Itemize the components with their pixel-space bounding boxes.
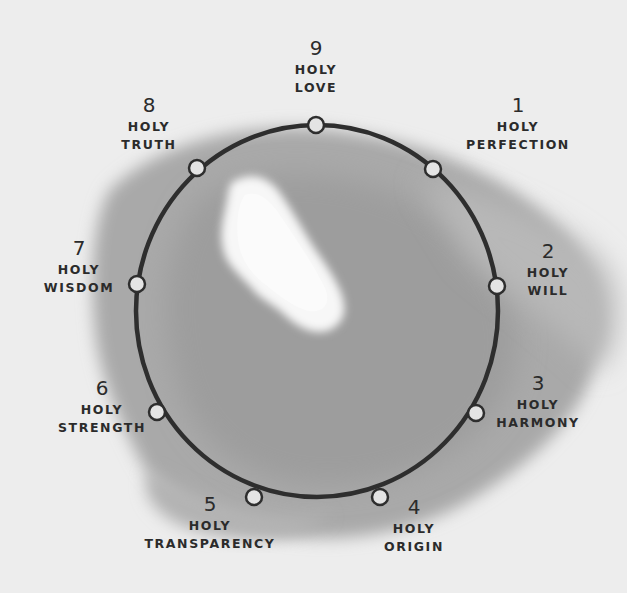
node-9[interactable]: [308, 117, 324, 133]
node-number: 8: [121, 95, 176, 115]
label-node-7: 7 HOLY WISDOM: [44, 238, 114, 294]
node-number: 3: [496, 373, 580, 393]
node-label-line1: HOLY: [466, 121, 570, 134]
label-node-4: 4 HOLY ORIGIN: [384, 497, 444, 553]
node-number: 9: [295, 38, 338, 58]
label-node-2: 2 HOLY WILL: [527, 241, 570, 297]
node-label-line2: PERFECTION: [466, 139, 570, 152]
label-node-3: 3 HOLY HARMONY: [496, 373, 580, 429]
node-7[interactable]: [129, 276, 145, 292]
node-label-line1: HOLY: [44, 264, 114, 277]
node-label-line2: ORIGIN: [384, 541, 444, 554]
node-number: 2: [527, 241, 570, 261]
label-node-1: 1 HOLY PERFECTION: [466, 95, 570, 151]
node-label-line1: HOLY: [144, 520, 275, 533]
node-label-line2: TRANSPARENCY: [144, 538, 275, 551]
node-label-line2: TRUTH: [121, 139, 176, 152]
node-label-line2: STRENGTH: [58, 422, 146, 435]
node-label-line1: HOLY: [121, 121, 176, 134]
node-label-line1: HOLY: [496, 399, 580, 412]
label-node-6: 6 HOLY STRENGTH: [58, 378, 146, 434]
node-label-line1: HOLY: [58, 404, 146, 417]
node-number: 6: [58, 378, 146, 398]
node-number: 7: [44, 238, 114, 258]
node-label-line2: WISDOM: [44, 282, 114, 295]
watercolor-wash: [93, 128, 617, 539]
node-label-line1: HOLY: [295, 64, 338, 77]
node-3[interactable]: [468, 405, 484, 421]
node-number: 4: [384, 497, 444, 517]
node-label-line2: LOVE: [295, 82, 338, 95]
node-6[interactable]: [149, 404, 165, 420]
holy-ideas-diagram: 9 HOLY LOVE 1 HOLY PERFECTION 2 HOLY WIL…: [0, 0, 627, 593]
label-node-5: 5 HOLY TRANSPARENCY: [144, 494, 275, 550]
node-number: 5: [144, 494, 275, 514]
label-node-9: 9 HOLY LOVE: [295, 38, 338, 94]
node-1[interactable]: [425, 161, 441, 177]
node-label-line2: HARMONY: [496, 417, 580, 430]
node-label-line1: HOLY: [527, 267, 570, 280]
node-label-line2: WILL: [527, 285, 570, 298]
node-number: 1: [466, 95, 570, 115]
node-8[interactable]: [189, 160, 205, 176]
node-label-line1: HOLY: [384, 523, 444, 536]
label-node-8: 8 HOLY TRUTH: [121, 95, 176, 151]
node-2[interactable]: [489, 278, 505, 294]
